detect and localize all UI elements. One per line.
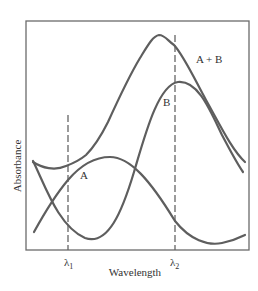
x-axis-label: Wavelength — [109, 266, 162, 278]
curve-b — [33, 82, 243, 239]
curve-b-label: B — [163, 96, 170, 108]
curve-a — [34, 157, 245, 244]
curve-a-label: A — [80, 169, 88, 181]
lambda2-subscript: 2 — [175, 262, 179, 271]
lambda2-tick-label: λ2 — [170, 256, 179, 271]
absorbance-chart: Absorbance Wavelength λ1 λ2 A + B B A — [0, 0, 258, 291]
lambda1-subscript: 1 — [69, 262, 73, 271]
lambda1-tick-label: λ1 — [64, 256, 73, 271]
curve-a-plus-b-label: A + B — [196, 53, 222, 65]
y-axis-label: Absorbance — [11, 140, 23, 193]
